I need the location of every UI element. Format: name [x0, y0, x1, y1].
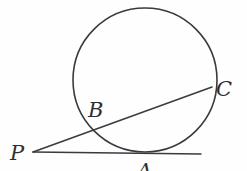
tangent-line-PA: [33, 152, 201, 154]
geometry-canvas: P B C A: [0, 0, 247, 171]
point-label-b: B: [87, 98, 103, 122]
point-label-a: A: [135, 159, 152, 171]
secant-line-PC: [33, 87, 212, 152]
geometry-figure: P B C A: [0, 0, 247, 171]
point-label-p: P: [9, 141, 25, 165]
point-label-c: C: [216, 77, 232, 101]
